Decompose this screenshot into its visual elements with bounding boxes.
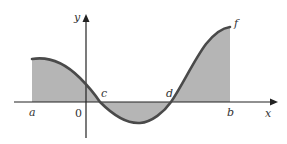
function-f-label: f — [233, 17, 240, 30]
x-axis-arrow-icon — [270, 99, 278, 106]
shaded-area — [32, 58, 100, 102]
area-diagram: y x 0 a b c d f — [0, 0, 287, 144]
point-d-label: d — [166, 87, 173, 100]
origin-label: 0 — [75, 107, 82, 120]
y-axis-label: y — [73, 11, 81, 24]
y-axis-arrow-icon — [83, 14, 90, 22]
shaded-area-positive — [171, 27, 230, 102]
point-b-label: b — [227, 106, 234, 119]
point-c-label: c — [101, 87, 107, 100]
x-axis-label: x — [265, 107, 272, 120]
point-a-label: a — [29, 106, 36, 119]
